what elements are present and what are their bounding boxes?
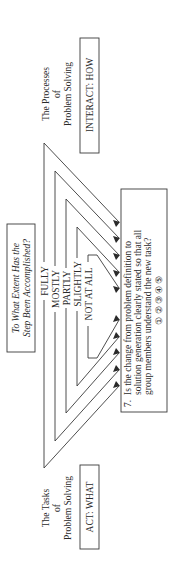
arrow-icon: [113, 270, 120, 277]
scale-label-slightly: SLIGHTLY: [73, 261, 83, 307]
arrow-icon: [113, 286, 120, 293]
slightly-line-bottom: [77, 311, 119, 386]
question-line-1: Is the change from problem definition to: [123, 241, 133, 395]
arrow-icon: [113, 332, 120, 339]
mostly-line-top: [55, 171, 119, 266]
scale-label-mostly: MOSTLY: [51, 270, 61, 308]
header-line-1: To What Extent Has the: [11, 243, 21, 333]
header-box: To What Extent Has the Step Been Accompl…: [7, 224, 35, 352]
tasks-label: The Tasks of Problem Solving ACT: WHAT: [41, 465, 99, 549]
partly-line-bottom: [66, 308, 119, 413]
question-box: 7. Is the change from problem definition…: [121, 189, 167, 412]
act-what-label: ACT: WHAT: [85, 481, 95, 532]
arrowheads: [113, 220, 120, 388]
rating-circles[interactable]: ① ② ③ ④ ⑤: [154, 276, 164, 325]
tasks-line-3: Problem Solving: [63, 476, 73, 540]
processes-line-3: Problem Solving: [63, 62, 73, 126]
problem-solving-diagram: To What Extent Has the Step Been Accompl…: [0, 0, 171, 586]
arrow-icon: [113, 253, 120, 260]
tasks-line-2: of: [52, 503, 62, 512]
arrow-icon: [113, 348, 120, 355]
interact-how-label: INTERACT: HOW: [85, 58, 95, 132]
header-line-2: Step Been Accomplished?: [22, 239, 32, 337]
arrow-icon: [113, 236, 120, 243]
partly-line-top: [66, 199, 119, 268]
arrow-icon: [113, 365, 120, 372]
scale-label-partly: PARTLY: [62, 271, 72, 306]
scale-labels: FULLY MOSTLY PARTLY SLIGHTLY NOT AT ALL: [40, 261, 94, 320]
processes-line-1: The Processes: [41, 67, 51, 121]
arrow-icon: [113, 220, 120, 227]
question-line-3: group members understand the new task?: [143, 238, 153, 396]
slightly-line-top: [77, 227, 119, 272]
scale-label-not-at-all: NOT AT ALL: [84, 267, 94, 320]
tasks-line-1: The Tasks: [41, 488, 51, 527]
arrow-icon: [113, 381, 120, 388]
question-number: 7.: [123, 400, 133, 407]
processes-line-2: of: [52, 89, 62, 98]
scale-label-fully: FULLY: [40, 266, 50, 296]
processes-label: The Processes of Problem Solving INTERAC…: [41, 38, 99, 153]
question-line-2: solution generation clearly stated so th…: [133, 229, 143, 395]
